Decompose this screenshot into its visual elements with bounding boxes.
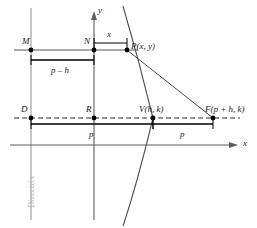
point-label-M: M: [22, 37, 30, 46]
point-V-dot: [151, 116, 156, 121]
measure-label-p-right: p: [180, 130, 185, 139]
y-axis-label: y: [98, 6, 102, 15]
point-label-F: F(p + h, k): [205, 105, 245, 114]
point-M-dot: [29, 48, 34, 53]
figure-canvas: [0, 0, 257, 228]
directrix-label: Directrix: [27, 176, 36, 208]
point-F-dot: [211, 116, 216, 121]
y-axis-arrowhead: [91, 11, 97, 20]
point-N-dot: [92, 48, 97, 53]
measure-label-p-minus-h: p – h: [51, 66, 69, 75]
point-P-dot: [125, 48, 130, 53]
x-axis-label: x: [243, 139, 247, 148]
measure-bracket-x: [94, 38, 127, 48]
measure-label-p-left: p: [89, 130, 94, 139]
point-label-N: N: [84, 37, 90, 46]
measure-bracket-p-minus-h: [31, 55, 94, 65]
point-label-R: R: [86, 105, 92, 114]
measure-bracket-p-right: [153, 120, 213, 129]
measure-label-x: x: [107, 30, 111, 39]
point-label-D: D: [21, 105, 28, 114]
point-label-V: V(h, k): [139, 105, 164, 114]
x-axis-arrowhead: [229, 142, 238, 148]
measure-bracket-p-left: [31, 120, 153, 129]
parabola-figure: M N P(x, y) D R V(h, k) F(p + h, k) x p …: [0, 0, 257, 228]
point-R-dot: [92, 116, 97, 121]
point-D-dot: [29, 116, 34, 121]
point-label-P: P(x, y): [131, 42, 155, 51]
